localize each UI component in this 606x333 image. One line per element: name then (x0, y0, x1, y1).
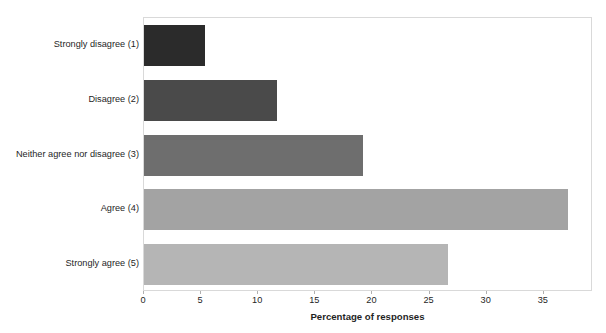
x-tick-label-0: 0 (123, 295, 163, 306)
bar-fill (144, 25, 205, 66)
bar-fill (144, 80, 277, 121)
x-tick-label-1: 5 (180, 295, 220, 306)
x-axis: Percentage of responses 05101520253035 (143, 291, 592, 333)
x-tick-1 (200, 291, 201, 294)
y-axis-label-1: Strongly disagree (1) (3, 39, 139, 50)
x-tick-0 (143, 291, 144, 294)
chart-title (143, 0, 592, 1)
x-tick-label-2: 10 (237, 295, 277, 306)
y-axis-label-4: Agree (4) (3, 203, 139, 214)
bar-1 (144, 25, 205, 66)
y-axis-label-3: Neither agree nor disagree (3) (3, 149, 139, 160)
x-tick-5 (429, 291, 430, 294)
x-tick-6 (486, 291, 487, 294)
bar-chart-figure: Strongly disagree (1)Disagree (2)Neither… (0, 0, 606, 333)
x-tick-7 (543, 291, 544, 294)
bar-fill (144, 244, 448, 285)
x-tick-3 (314, 291, 315, 294)
y-axis-label-group: Strongly disagree (1)Disagree (2)Neither… (0, 17, 139, 291)
bar-2 (144, 80, 277, 121)
x-tick-label-6: 30 (466, 295, 506, 306)
x-tick-label-4: 20 (351, 295, 391, 306)
bar-3 (144, 135, 363, 176)
bar-4 (144, 189, 568, 230)
plot-area (143, 17, 592, 291)
x-tick-label-7: 35 (523, 295, 563, 306)
bar-fill (144, 135, 363, 176)
bar-5 (144, 244, 448, 285)
bar-fill (144, 189, 568, 230)
y-axis-label-5: Strongly agree (5) (3, 258, 139, 269)
x-tick-2 (257, 291, 258, 294)
x-tick-label-3: 15 (294, 295, 334, 306)
x-axis-title: Percentage of responses (143, 311, 592, 323)
x-tick-label-5: 25 (409, 295, 449, 306)
y-axis-label-2: Disagree (2) (3, 94, 139, 105)
x-tick-4 (371, 291, 372, 294)
